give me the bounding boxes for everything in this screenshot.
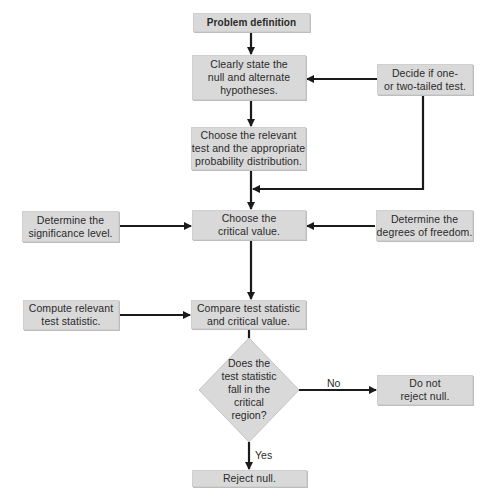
node-problem-definition: Problem definition xyxy=(193,13,310,32)
node-degrees-freedom: Determine the degrees of freedom. xyxy=(376,210,473,241)
node-compute-statistic: Compute relevant test statistic. xyxy=(23,300,119,330)
node-critical-value: Choose the critical value. xyxy=(192,210,306,240)
edge-label-yes: Yes xyxy=(255,449,272,461)
node-significance-level: Determine the significance level. xyxy=(22,211,119,242)
node-do-not-reject: Do not reject null. xyxy=(377,375,473,405)
edge-label-no: No xyxy=(327,377,340,389)
node-compare: Compare test statistic and critical valu… xyxy=(191,300,306,329)
node-choose-test: Choose the relevant test and the appropr… xyxy=(191,127,306,170)
node-reject: Reject null. xyxy=(192,470,307,487)
flowchart-canvas: Problem definition Clearly state the nul… xyxy=(0,0,495,502)
node-decision-text: Does the test statistic fall in the crit… xyxy=(209,357,289,422)
node-decide-tails: Decide if one- or two-tailed test. xyxy=(377,64,473,95)
node-state-hypotheses: Clearly state the null and alternate hyp… xyxy=(192,55,306,100)
